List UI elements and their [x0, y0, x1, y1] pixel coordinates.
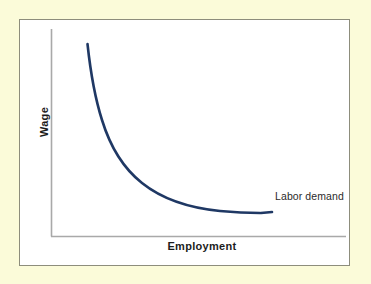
figure-container: Wage Employment Labor demand — [0, 0, 371, 284]
x-axis-label: Employment — [52, 240, 352, 252]
legend-dash-icon — [261, 212, 272, 213]
y-axis-label: Wage — [38, 92, 50, 152]
chart-panel: Wage Employment Labor demand — [19, 19, 350, 266]
labor-demand-curve — [88, 44, 261, 213]
labor-demand-plot — [20, 20, 351, 267]
labor-demand-annotation: Labor demand — [275, 190, 344, 202]
